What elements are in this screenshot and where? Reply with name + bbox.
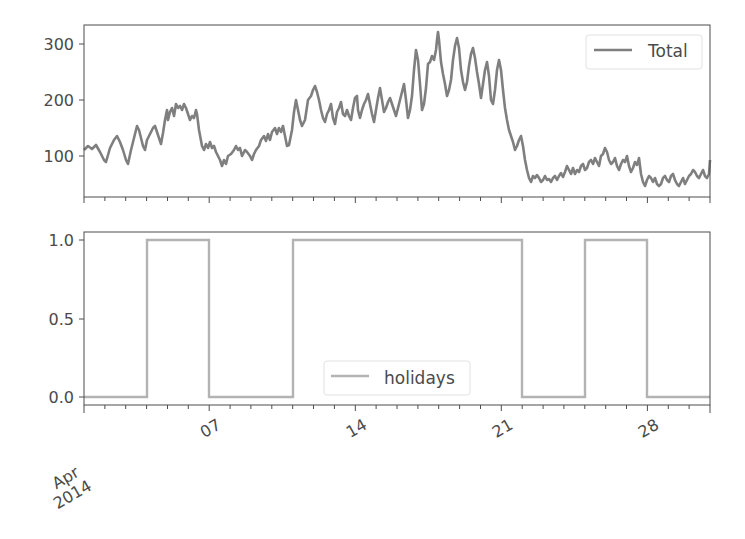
top-ytick-300: 300: [43, 35, 74, 54]
x-major-label: Apr 2014: [41, 461, 95, 513]
xtick-21: 21: [489, 415, 516, 442]
top-y-axis: [79, 44, 84, 156]
top-x-minor-ticks: [84, 197, 710, 203]
xtick-07: 07: [197, 415, 224, 442]
legend-label-total: Total: [647, 41, 688, 61]
bottom-y-axis: [79, 240, 84, 397]
top-ytick-100: 100: [43, 147, 74, 166]
legend-label-holidays: holidays: [384, 368, 455, 388]
top-ytick-200: 200: [43, 91, 74, 110]
top-axes: 100 200 300: [43, 25, 710, 203]
bottom-ytick-0-5: 0.5: [49, 310, 74, 329]
bottom-legend: holidays: [324, 361, 470, 395]
bottom-axes: 0.0 0.5 1.0: [41, 231, 710, 513]
top-legend: Total: [586, 35, 702, 69]
bottom-ytick-1: 1.0: [49, 231, 74, 250]
xtick-28: 28: [635, 415, 662, 442]
xtick-14: 14: [343, 415, 370, 442]
bottom-x-ticks: [84, 405, 710, 413]
chart-figure: 100 200 300: [0, 0, 745, 539]
bottom-ytick-0: 0.0: [49, 388, 74, 407]
